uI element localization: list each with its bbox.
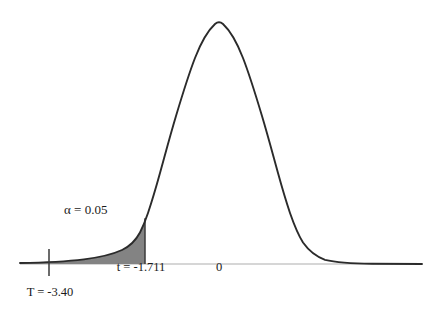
test-statistic-label: T = -3.40 — [27, 286, 74, 299]
rejection-region-shading — [20, 218, 145, 264]
critical-value-label: t = -1.711 — [117, 261, 166, 274]
t-distribution-curve — [20, 22, 422, 264]
t-distribution-chart: α = 0.05 t = -1.711 0 T = -3.40 — [0, 0, 439, 309]
alpha-label: α = 0.05 — [64, 203, 107, 216]
center-label: 0 — [216, 261, 222, 274]
